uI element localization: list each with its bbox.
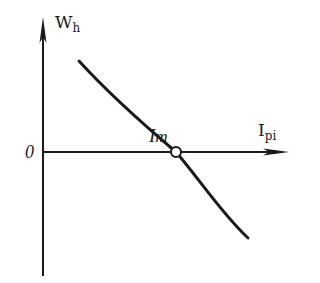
x-axis-label-sub: pi (265, 129, 277, 143)
intersection-point-marker (171, 147, 181, 157)
curve (79, 61, 248, 238)
x-axis-label-main: I (258, 120, 265, 140)
point-label: Im (149, 126, 168, 145)
point-label-sub: m (155, 127, 167, 146)
origin-label: 0 (25, 143, 34, 161)
x-axis-label: Ipi (258, 122, 276, 139)
y-axis-label-main: W (55, 12, 72, 32)
y-axis-label-sub: h (72, 21, 80, 35)
y-axis-label: Wh (55, 14, 80, 31)
